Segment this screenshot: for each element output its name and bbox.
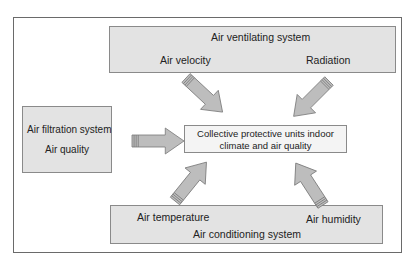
arrow-air-filtration xyxy=(132,128,184,154)
arrow-radiation xyxy=(284,72,338,126)
arrow-air-temperature xyxy=(165,154,217,209)
arrows-layer xyxy=(0,0,414,263)
arrow-air-velocity xyxy=(177,68,231,121)
arrow-air-humidity xyxy=(285,156,334,212)
